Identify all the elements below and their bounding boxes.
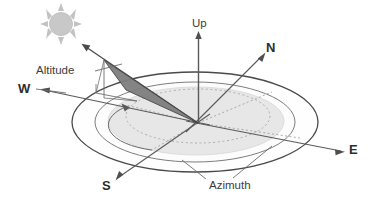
horizon-coordinate-diagram: Up N S E W Altitude Azimuth bbox=[0, 0, 371, 204]
label-north: N bbox=[266, 41, 275, 54]
west-leader bbox=[36, 89, 66, 93]
label-up: Up bbox=[192, 18, 207, 30]
diagram-canvas bbox=[0, 0, 371, 204]
sun-ray-arrowhead bbox=[82, 44, 91, 52]
label-west: W bbox=[18, 82, 30, 95]
north-arrowhead bbox=[258, 53, 266, 63]
sun-icon bbox=[40, 3, 82, 45]
label-altitude: Altitude bbox=[36, 65, 74, 77]
label-south: S bbox=[102, 179, 111, 192]
label-east: E bbox=[349, 143, 358, 156]
up-arrowhead bbox=[195, 31, 201, 39]
south-arrowhead bbox=[116, 171, 124, 181]
altitude-left-edge bbox=[96, 60, 104, 93]
label-azimuth: Azimuth bbox=[209, 180, 251, 192]
